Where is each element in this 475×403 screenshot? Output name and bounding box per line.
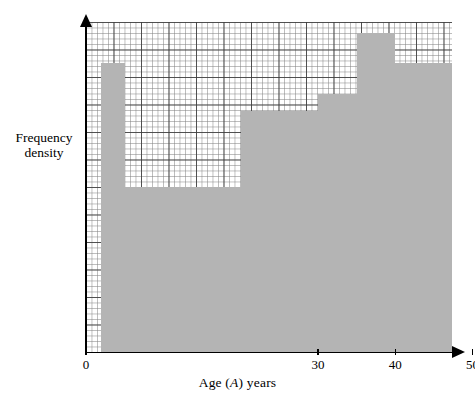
histogram-bar [163,187,240,352]
x-axis-title-variable: A [230,375,238,390]
x-axis-title-prefix: Age ( [199,375,230,390]
histogram-bar [241,111,318,352]
histogram-bar [395,63,452,352]
histogram-bar [357,33,396,352]
x-axis-tick [472,349,473,355]
x-axis-title-suffix: ) years [239,375,277,390]
x-axis-title: Age (A) years [0,375,475,391]
histogram-figure: 030405060 Age (A) years Frequency densit… [0,0,475,403]
y-axis-title-line2: density [8,145,80,160]
y-axis-line [85,24,87,353]
x-axis-tick [317,349,318,355]
x-axis-tick-label: 40 [375,357,415,372]
histogram-bar [125,187,164,352]
y-axis-arrow-icon [80,14,92,27]
x-axis-tick-label: 50 [453,357,475,372]
x-axis-tick-label: 30 [298,357,338,372]
x-axis-tick [85,349,86,355]
plot-grid [86,22,452,352]
histogram-bar [101,63,124,352]
y-axis-title-line1: Frequency [8,130,80,145]
x-axis-line [86,352,456,354]
x-axis-tick [395,349,396,355]
y-axis-title: Frequency density [8,130,80,160]
x-axis-tick-label: 0 [66,357,106,372]
histogram-bar [318,94,357,353]
